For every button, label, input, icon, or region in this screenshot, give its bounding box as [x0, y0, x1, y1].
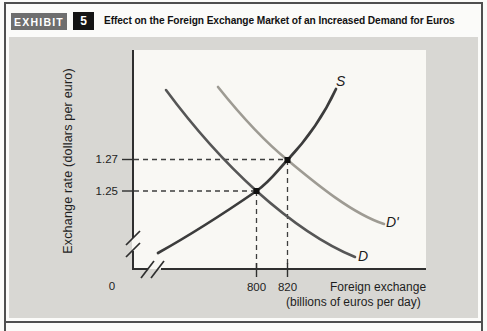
y-tick-label-1.25: 1.25	[86, 185, 118, 197]
y-axis-title: Exchange rate (dollars per euro)	[61, 68, 75, 254]
x-tick-label-800: 800	[241, 281, 272, 293]
x-axis-title-line2: (billions of euros per day)	[286, 295, 421, 309]
origin-label: 0	[104, 280, 120, 292]
demand-new-curve-label: D'	[386, 214, 399, 230]
x-axis-title-line1: Foreign exchange	[330, 280, 426, 294]
demand-new-curve	[218, 87, 384, 224]
x-tick-label-820: 820	[272, 281, 303, 293]
y-tick-label-1.27: 1.27	[86, 153, 118, 165]
demand-curve-label: D	[358, 248, 368, 264]
equilibrium-dot-new	[285, 157, 291, 163]
equilibrium-dot-original	[254, 188, 260, 194]
supply-curve-label: S	[336, 73, 345, 89]
